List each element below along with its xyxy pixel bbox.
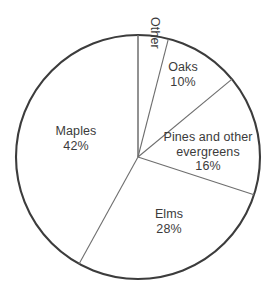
slice-label-maples: Maples 42% [31, 124, 121, 153]
slice-label-other-name: Other [148, 17, 162, 49]
slice-label-pines-percent: 16% [146, 159, 270, 174]
slice-label-other: Other [148, 17, 162, 77]
slice-label-elms: Elms 28% [126, 207, 212, 236]
slice-label-pines-name-line2: evergreens [146, 145, 270, 160]
slice-label-pines-name-line1: Pines and other [146, 130, 270, 145]
slice-label-elms-percent: 28% [126, 222, 212, 237]
slice-label-maples-percent: 42% [31, 139, 121, 154]
slice-label-pines: Pines and other evergreens 16% [146, 130, 270, 174]
pie-chart: Maples 42% Oaks 10% Pines and other ever… [0, 0, 276, 304]
slice-label-elms-name: Elms [126, 207, 212, 222]
slice-label-maples-name: Maples [31, 124, 121, 139]
